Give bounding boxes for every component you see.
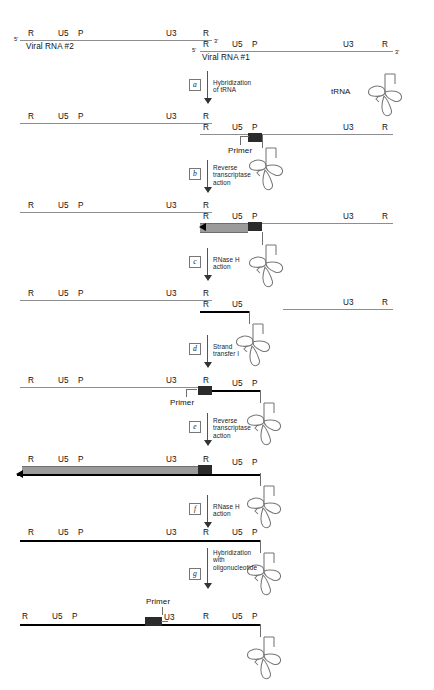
panel3-rna2-label-R-left: R	[28, 201, 34, 210]
panel8-primer-connector	[161, 621, 168, 622]
step-f-arrow-shaft	[207, 495, 208, 523]
step-g-box: g	[189, 568, 201, 580]
panel2-viral-rna-2-strand	[20, 123, 212, 124]
panel2-primer-leader-vertical	[240, 136, 241, 145]
panel5-viral-rna-2-strand	[20, 387, 212, 388]
panel8-label-P: P	[72, 612, 78, 621]
panel3-trna-cloverleaf-icon	[236, 243, 288, 291]
panel6-label-R-right: R	[203, 455, 209, 464]
panel3-primer-block	[248, 222, 262, 231]
panel5-dna-label-P: P	[252, 379, 258, 388]
panel5-primer-leader-vertical	[186, 389, 187, 397]
viral-rna-2-name: Viral RNA #2	[26, 42, 74, 51]
panel3-rna1-label-R: R	[203, 212, 209, 221]
step-d-arrow-shaft	[207, 335, 208, 363]
rna2-three-prime-label: 3'	[214, 37, 218, 46]
panel5-rna2-label-R-right: R	[203, 376, 209, 385]
rna2-five-prime-label: 5'	[14, 35, 18, 44]
panel4-dna-label-U5: U5	[232, 300, 243, 309]
step-c-arrow-head	[204, 275, 212, 281]
rna2-label-P: P	[78, 29, 84, 38]
panel7-label-P-right: P	[252, 528, 258, 537]
rna2-label-R-right: R	[203, 29, 209, 38]
panel5-minus-strand-dna	[212, 390, 260, 392]
panel2-rna2-label-R-right: R	[203, 112, 209, 121]
panel7-label-U5-right: U5	[232, 528, 243, 537]
step-f-box: f	[189, 503, 201, 515]
panel5-rna2-label-U3: U3	[166, 376, 177, 385]
step-a-text: Hybridization of tRNA	[213, 79, 251, 94]
step-g-text: Hybridization with oligonucleotide	[213, 549, 257, 571]
rna1-label-U3: U3	[343, 40, 354, 49]
panel8-primer-label: Primer	[146, 597, 170, 606]
panel6-label-P-right: P	[252, 458, 258, 467]
panel8-label-R-right: R	[203, 612, 209, 621]
rna1-label-P: P	[252, 40, 258, 49]
step-g-arrow-head	[204, 583, 212, 589]
step-e-arrow-shaft	[207, 413, 208, 441]
panel8-label-P-right: P	[252, 612, 258, 621]
panel3-rna2-label-P: P	[78, 201, 84, 210]
panel6-label-P: P	[78, 455, 84, 464]
panel5-rna2-label-R-left: R	[28, 376, 34, 385]
panel7-minus-strand-dna	[20, 540, 260, 542]
viral-rna-2-strand	[20, 40, 212, 41]
step-b-box: b	[189, 168, 201, 180]
step-a-arrow-head	[204, 98, 212, 104]
panel4-minus-strand-dna	[200, 311, 249, 313]
panel4-remnant-label-U3: U3	[343, 298, 354, 307]
panel3-rna1-label-P: P	[252, 212, 258, 221]
panel2-rna2-label-R-left: R	[28, 112, 34, 121]
step-a-box: a	[189, 79, 201, 91]
panel8-primer-leader-vertical	[162, 607, 163, 615]
panel4-rna2-label-R-right: R	[203, 289, 209, 298]
panel5-dna-label-U5: U5	[232, 379, 243, 388]
step-c-box: c	[189, 256, 201, 268]
panel3-nascent-dna-bar	[200, 223, 248, 233]
step-c-text: RNase H action	[213, 256, 240, 271]
panel2-rna2-label-U5: U5	[58, 112, 69, 121]
rna1-label-R-right: R	[382, 40, 388, 49]
step-d-text: Strand transfer I	[213, 343, 239, 358]
viral-rna-1-name: Viral RNA #1	[202, 53, 250, 62]
panel2-rna2-label-P: P	[78, 112, 84, 121]
panel2-rna1-label-U5: U5	[232, 123, 243, 132]
panel7-label-R-left: R	[28, 528, 34, 537]
panel6-trna-cloverleaf-icon	[234, 484, 286, 532]
rna2-label-U3: U3	[166, 29, 177, 38]
panel6-primer-block	[198, 465, 212, 474]
panel7-label-P: P	[78, 528, 84, 537]
panel4-rna2-label-U5: U5	[58, 289, 69, 298]
panel8-primer-block	[145, 617, 162, 626]
rna1-five-prime-label: 5'	[192, 46, 196, 55]
panel2-viral-rna-1-strand	[200, 134, 393, 135]
step-e-arrow-head	[204, 440, 212, 446]
rna2-label-U5: U5	[58, 29, 69, 38]
panel6-synthesis-direction-arrow	[16, 470, 23, 478]
panel5-primer-label: Primer	[170, 398, 194, 407]
panel3-rna1-label-R-right: R	[382, 212, 388, 221]
panel3-rna1-label-U5: U5	[232, 212, 243, 221]
panel8-label-R-left: R	[22, 612, 28, 621]
panel3-rna2-label-U5: U5	[58, 201, 69, 210]
panel8-label-U5-right: U5	[232, 612, 243, 621]
panel4-viral-rna-1-remnant	[283, 309, 393, 310]
panel3-rna2-label-R-right: R	[203, 201, 209, 210]
panel2-rna1-label-R: R	[203, 123, 209, 132]
rna2-label-R-left: R	[28, 29, 34, 38]
panel6-label-R-left: R	[28, 455, 34, 464]
step-e-text: Reverse transcriptase action	[213, 417, 251, 439]
panel8-label-U5: U5	[52, 612, 63, 621]
panel2-rna2-label-U3: U3	[166, 112, 177, 121]
panel5-rna2-label-P: P	[78, 376, 84, 385]
panel4-dna-label-R: R	[203, 300, 209, 309]
panel4-rna2-label-R-left: R	[28, 289, 34, 298]
step-f-text: RNase H action	[213, 503, 240, 518]
step-g-arrow-shaft	[207, 548, 208, 584]
panel7-label-U5: U5	[58, 528, 69, 537]
step-e-box: e	[189, 421, 201, 433]
panel5-rna2-label-U5: U5	[58, 376, 69, 385]
step-b-arrow-head	[204, 187, 212, 193]
panel6-label-U5-right: U5	[232, 458, 243, 467]
panel2-primer-block	[248, 133, 262, 142]
